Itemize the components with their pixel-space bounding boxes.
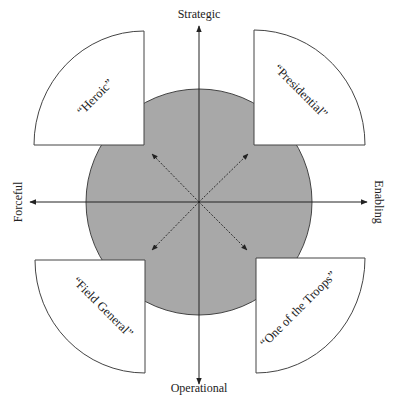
axis-label-right: Enabling [372,180,386,223]
leadership-diagram: Strategic Operational Forceful Enabling … [0,0,398,398]
wedge-top-left [34,31,144,145]
wedge-bottom-left [35,260,145,373]
axis-label-bottom: Operational [171,381,228,395]
wedge-bottom-right [256,258,365,373]
axis-label-left: Forceful [11,181,25,222]
axis-label-top: Strategic [178,7,221,21]
wedge-top-right [254,30,365,145]
